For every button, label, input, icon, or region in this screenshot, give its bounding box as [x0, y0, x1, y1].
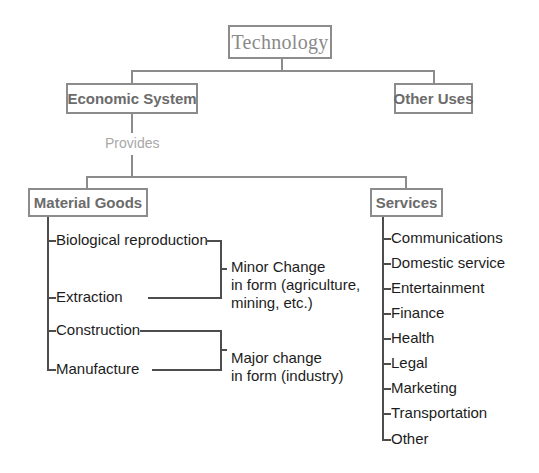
connector-provides-upper [131, 114, 133, 133]
group-label-minor-change: Minor Change in form (agriculture, minin… [231, 240, 360, 312]
leaf-health[interactable]: Health [391, 329, 434, 346]
node-other-uses[interactable]: Other Uses [394, 83, 473, 114]
node-economic-system[interactable]: Economic System [66, 83, 198, 114]
node-technology-label: Technology [231, 31, 328, 54]
node-technology[interactable]: Technology [228, 25, 332, 59]
tick-entertainment [382, 288, 391, 290]
leaf-extraction[interactable]: Extraction [56, 288, 123, 305]
leaf-transportation[interactable]: Transportation [391, 404, 487, 421]
leaf-marketing[interactable]: Marketing [391, 379, 457, 396]
node-material-goods[interactable]: Material Goods [28, 188, 148, 217]
connector-level3-bar [86, 176, 407, 178]
tick-finance [382, 313, 391, 315]
connector-to-other-uses [433, 70, 435, 84]
leaf-finance[interactable]: Finance [391, 304, 444, 321]
node-economic-system-label: Economic System [67, 90, 196, 107]
diagram-canvas: Technology Economic System Other Uses Pr… [0, 0, 539, 473]
tick-marketing [382, 388, 391, 390]
leaf-communications[interactable]: Communications [391, 229, 503, 246]
edge-label-provides: Provides [105, 135, 159, 151]
node-services-label: Services [376, 194, 438, 211]
bracket1-bottom-arm [148, 297, 222, 299]
node-services[interactable]: Services [370, 188, 443, 217]
spine-services [382, 217, 384, 441]
tick-biological-reproduction [47, 240, 56, 242]
leaf-manufacture[interactable]: Manufacture [56, 360, 139, 377]
bracket1-out-tick [220, 268, 227, 270]
connector-level2-bar [131, 70, 434, 72]
bracket2-bottom-arm [152, 369, 222, 371]
connector-to-economic-system [131, 70, 133, 84]
tick-communications [382, 238, 391, 240]
bracket2-out-tick [220, 349, 227, 351]
tick-extraction [47, 297, 56, 299]
tick-health [382, 338, 391, 340]
node-other-uses-label: Other Uses [393, 90, 473, 107]
node-material-goods-label: Material Goods [34, 194, 142, 211]
tick-other [382, 439, 391, 441]
leaf-entertainment[interactable]: Entertainment [391, 279, 484, 296]
leaf-construction[interactable]: Construction [56, 321, 140, 338]
leaf-biological-reproduction[interactable]: Biological reproduction [56, 231, 208, 248]
connector-provides-lower [131, 155, 133, 176]
leaf-legal[interactable]: Legal [391, 354, 428, 371]
tick-manufacture [47, 369, 56, 371]
bracket2-top-arm [140, 330, 222, 332]
tick-construction [47, 330, 56, 332]
tick-domestic-service [382, 263, 391, 265]
group-label-major-change: Major change in form (industry) [231, 331, 344, 385]
tick-legal [382, 363, 391, 365]
leaf-domestic-service[interactable]: Domestic service [391, 254, 505, 271]
leaf-other[interactable]: Other [391, 430, 429, 447]
tick-transportation [382, 413, 391, 415]
